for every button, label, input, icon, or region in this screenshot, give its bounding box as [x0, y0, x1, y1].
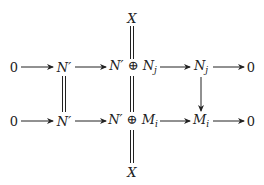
oplus-symbol: ⊕: [127, 112, 138, 127]
node-r2-zero-left: 0: [10, 115, 18, 128]
sum-right-term: M: [142, 112, 155, 127]
node-r2-mi: Mi: [193, 113, 209, 130]
equals-sum-to-x-bottom: [131, 130, 134, 163]
mi-base: M: [193, 112, 206, 127]
subscript-j: j: [205, 65, 208, 75]
node-x-top: X: [127, 12, 136, 25]
node-r2-direct-sum: N′ ⊕ Mi: [108, 113, 158, 130]
node-r1-nprime: N′: [57, 61, 71, 74]
oplus-symbol: ⊕: [128, 58, 139, 73]
node-r1-direct-sum: N′ ⊕ Nj: [109, 59, 157, 76]
node-r2-nprime: N′: [57, 115, 71, 128]
diagram-edges: [0, 0, 264, 185]
node-r1-zero-right: 0: [247, 61, 255, 74]
node-x-bottom: X: [127, 166, 136, 179]
subscript-j: j: [154, 65, 157, 75]
equals-sum-rows: [131, 76, 134, 112]
node-r2-zero-right: 0: [247, 115, 255, 128]
subscript-i: i: [155, 119, 158, 129]
commutative-diagram: X 0 N′ N′ ⊕ Nj Nj 0 0 N′ N′ ⊕ Mi Mi 0 X: [0, 0, 264, 185]
equals-x-top-to-sum: [131, 26, 134, 59]
sum-left-term: N′: [108, 112, 122, 127]
node-r1-zero-left: 0: [10, 61, 18, 74]
nj-base: N: [194, 58, 205, 73]
sum-right-term: N: [143, 58, 154, 73]
sum-left-term: N′: [109, 58, 123, 73]
node-r1-nj: Nj: [194, 59, 208, 76]
subscript-i: i: [206, 119, 209, 129]
equals-nprime-rows: [63, 76, 66, 112]
